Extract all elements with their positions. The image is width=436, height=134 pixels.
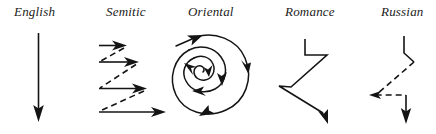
panel-label-russian: Russian [381, 5, 424, 18]
panel-label-romance: Romance [285, 5, 335, 18]
panel-label-semitic: Semitic [106, 5, 146, 18]
diagram-canvas [0, 0, 436, 134]
panel-label-english: English [14, 5, 55, 18]
diagram-romance [279, 39, 328, 124]
communication-styles-figure: English Semitic Oriental Romance Russian [0, 0, 436, 134]
diagram-english [33, 33, 44, 122]
panel-label-oriental: Oriental [188, 5, 234, 18]
diagram-russian [369, 36, 414, 124]
diagram-oriental [172, 35, 251, 116]
diagram-semitic [99, 41, 166, 118]
